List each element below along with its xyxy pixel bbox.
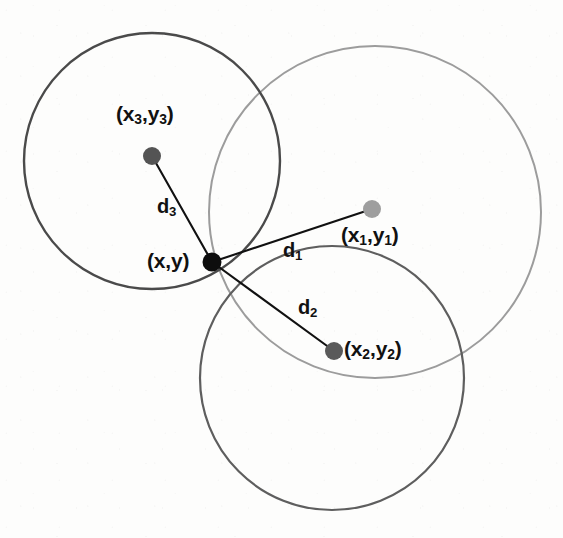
anchor-1-label-close: ) [392,223,399,246]
d3-label-sub: 3 [169,204,176,219]
target-point-label: (x,y) [147,250,189,271]
anchor-3-label-open: (x [116,102,134,125]
anchor-point-3-label: (x3,y3) [116,103,174,127]
anchor-1-label-sub-y: 1 [384,232,392,248]
anchor-2-label-open: (x [344,337,362,360]
anchor-2-label-sub-y: 2 [387,346,395,362]
d2-label-sub: 2 [310,305,317,320]
d3-label-base: d [157,195,169,217]
anchor-2-label-mid: ,y [370,337,387,360]
anchor-3-label-sub-y: 3 [159,111,167,127]
anchor-1-label-mid: ,y [367,223,384,246]
anchor-3-label-mid: ,y [142,102,159,125]
distance-label-d3: d3 [157,196,176,218]
d2-label-base: d [298,296,310,318]
d1-label-base: d [283,239,295,261]
anchor-2-label-sub-x: 2 [362,346,370,362]
distance-label-d2: d2 [298,297,317,319]
anchor-1-label-open: (x [341,223,359,246]
anchor-point-2-label: (x2,y2) [344,338,402,362]
target-point-dot [203,253,222,272]
anchor-3-label-close: ) [167,102,174,125]
anchor-point-1-label: (x1,y1) [341,224,399,248]
anchor-2-label-close: ) [395,337,402,360]
circle-anchor-2 [200,246,464,510]
anchor-point-2-dot [325,342,343,360]
figure-canvas [0,0,563,538]
trilateration-figure: (x3,y3) (x1,y1) (x2,y2) (x,y) d3 d1 d2 [0,0,563,538]
anchor-point-1-dot [363,200,381,218]
d1-label-sub: 1 [295,248,302,263]
anchor-point-3-dot [143,147,161,165]
distance-label-d1: d1 [283,240,302,262]
anchor-1-label-sub-x: 1 [359,232,367,248]
anchor-3-label-sub-x: 3 [134,111,142,127]
